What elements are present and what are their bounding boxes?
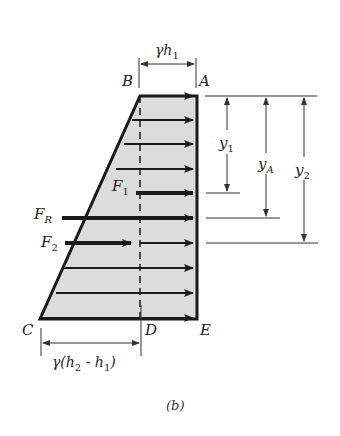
label-point-a: A xyxy=(197,72,210,90)
label-point-e: E xyxy=(199,321,211,339)
label-y1: y1 xyxy=(218,134,234,154)
pressure-distribution-diagram: γh1 B A C D E F1 FR F2 y1 yA y2 γ(h2 - h… xyxy=(0,0,340,436)
pressure-trapezoid xyxy=(40,96,197,319)
label-fr: FR xyxy=(33,205,52,225)
label-f2: F2 xyxy=(40,233,58,253)
figure-caption: (b) xyxy=(166,398,184,413)
label-y2: y2 xyxy=(294,161,310,181)
label-point-c: C xyxy=(22,321,34,339)
label-top-width: γh1 xyxy=(155,42,179,61)
label-bottom-width: γ(h2 - h1) xyxy=(52,354,116,373)
label-point-d: D xyxy=(144,321,157,339)
label-ya: yA xyxy=(257,155,274,175)
label-point-b: B xyxy=(121,72,133,90)
